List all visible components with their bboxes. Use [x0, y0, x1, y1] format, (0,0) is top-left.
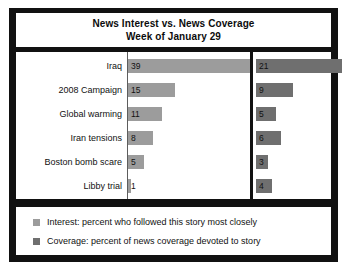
chart-row: Global warming115: [16, 102, 331, 126]
bar-interest: [128, 59, 250, 73]
category-label: Global warming: [59, 102, 122, 126]
chart-figure: News Interest vs. News Coverage Week of …: [0, 0, 347, 280]
category-label: Boston bomb scare: [44, 150, 122, 174]
bar-rows: Iraq39212008 Campaign159Global warming11…: [16, 52, 331, 199]
bar-value-coverage: 9: [259, 83, 264, 97]
bar-value-interest: 11: [131, 107, 140, 121]
chart-row: Boston bomb scare53: [16, 150, 331, 174]
chart-row: Iraq3921: [16, 54, 331, 78]
bar-value-coverage: 21: [259, 59, 268, 73]
chart-title-panel: News Interest vs. News Coverage Week of …: [16, 13, 331, 47]
bar-value-interest: 8: [131, 131, 136, 145]
bar-value-interest: 5: [131, 155, 136, 169]
category-label: Libby trial: [83, 174, 122, 198]
bar-value-interest: 39: [131, 59, 140, 73]
legend-swatch-coverage-icon: [33, 238, 40, 245]
legend-item-coverage: Coverage: percent of news coverage devot…: [33, 232, 331, 250]
legend-swatch-interest-icon: [33, 219, 40, 226]
bar-value-interest: 1: [131, 179, 136, 193]
bar-value-coverage: 4: [259, 179, 264, 193]
legend-item-interest: Interest: percent who followed this stor…: [33, 213, 331, 231]
bar-value-coverage: 6: [259, 131, 264, 145]
category-label: Iraq: [106, 54, 122, 78]
chart-row: 2008 Campaign159: [16, 78, 331, 102]
category-label: Iran tensions: [70, 126, 122, 150]
chart-row: Iran tensions86: [16, 126, 331, 150]
chart-subtitle: Week of January 29: [126, 30, 221, 43]
bar-value-coverage: 3: [259, 155, 264, 169]
chart-legend: Interest: percent who followed this stor…: [16, 207, 331, 255]
page-title: News Interest vs. News Coverage: [92, 17, 254, 30]
legend-label-coverage: Coverage: percent of news coverage devot…: [47, 236, 261, 246]
bar-coverage: [256, 59, 342, 73]
plot-area: Iraq39212008 Campaign159Global warming11…: [16, 52, 331, 199]
legend-label-interest: Interest: percent who followed this stor…: [47, 217, 257, 227]
category-label: 2008 Campaign: [58, 78, 122, 102]
bar-value-interest: 15: [131, 83, 140, 97]
bar-value-coverage: 5: [259, 107, 264, 121]
chart-row: Libby trial14: [16, 174, 331, 198]
